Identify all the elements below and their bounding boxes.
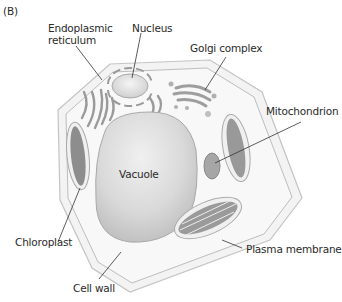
label-mitochondrion: Mitochondrion (266, 105, 338, 117)
label-cell-wall: Cell wall (73, 282, 115, 294)
label-chloroplast: Chloroplast (15, 236, 72, 248)
label-er-line1: Endoplasmic (48, 22, 113, 34)
label-nucleus: Nucleus (132, 22, 172, 34)
label-golgi-complex: Golgi complex (190, 42, 262, 54)
label-er-line2: reticulum (48, 34, 96, 46)
label-plasma-membrane: Plasma membrane (246, 243, 342, 255)
label-vacuole: Vacuole (119, 168, 159, 180)
panel-label: (B) (3, 5, 18, 17)
mitochondrion (204, 153, 220, 179)
nucleus (112, 74, 148, 98)
